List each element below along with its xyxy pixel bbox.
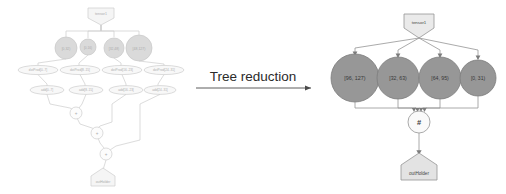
left-reduce-op-label: + <box>75 111 78 116</box>
right-edges-source <box>355 38 478 59</box>
right-sink-label: outHolder <box>409 171 429 176</box>
right-partition-label: [0, 31) <box>471 75 486 81</box>
left-op-label: add[16..23] <box>118 88 134 92</box>
right-source-node: tensor1 <box>404 14 434 38</box>
left-partition-label: [0,16) <box>84 46 92 50</box>
right-partition-label: [96, 127) <box>344 75 365 81</box>
left-op-label: add[0..7] <box>41 88 53 92</box>
left-row2-ops: add[0..7] add[8..15] add[16..23] add[24.… <box>30 86 176 95</box>
tree-reduction-figure: [0,32) [0,16) [32,48) [48,127) tensor1 <box>0 0 506 194</box>
left-row1-ops: dotProd[0..7] dotProd[8..15] dotProd[16.… <box>18 65 184 74</box>
figure-canvas: [0,32) [0,16) [32,48) [48,127) tensor1 <box>0 0 506 194</box>
left-partition-circles: [0,32) [0,16) [32,48) [48,127) <box>55 35 152 61</box>
left-op-label: dotProd[0..7] <box>29 68 47 72</box>
figure-caption: Tree reduction <box>210 69 297 84</box>
left-op-label: dotProd[24..31] <box>153 68 175 72</box>
left-edges-row2 <box>38 75 164 86</box>
left-graph: [0,32) [0,16) [32,48) [48,127) tensor1 <box>18 8 184 186</box>
left-reduce-op-label: + <box>105 152 108 157</box>
right-edge-arrowheads-top <box>353 52 481 61</box>
left-reduce-chain: + + + <box>70 107 112 160</box>
right-partition-label: [32, 63) <box>389 75 407 81</box>
right-source-label: tensor1 <box>412 20 427 25</box>
left-op-label: add[8..15] <box>79 88 93 92</box>
right-graph: tensor1 [96, 127) [32, 63) <box>331 14 496 180</box>
right-partition-circles: [96, 127) [32, 63) [64, 95) [0, 31) <box>331 54 496 102</box>
left-op-label: add[24..31] <box>152 88 168 92</box>
left-source-label: tensor1 <box>95 12 107 16</box>
left-sink-node: outHolder <box>91 168 115 186</box>
left-sink-label: outHolder <box>96 180 112 184</box>
right-partition-label: [64, 95) <box>431 75 449 81</box>
right-reducer-node: # <box>408 111 430 133</box>
right-arrow-icon <box>196 86 311 91</box>
left-op-label: dotProd[16..23] <box>111 68 133 72</box>
left-op-label: dotProd[8..15] <box>70 68 90 72</box>
left-source-node: tensor1 <box>88 8 114 25</box>
left-partition-label: [0,32) <box>62 47 71 51</box>
left-reduce-op-label: + <box>96 131 99 136</box>
left-partition-label: [48,127) <box>133 47 146 51</box>
left-edges-source <box>66 25 139 38</box>
transform-annotation: Tree reduction <box>196 69 311 90</box>
right-sink-node: outHolder <box>401 153 437 180</box>
left-partition-label: [32,48) <box>109 47 119 51</box>
left-reduce-edges <box>47 94 160 150</box>
